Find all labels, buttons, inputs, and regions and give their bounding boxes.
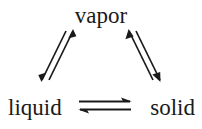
arrow-liquid-to-solid (78, 97, 132, 113)
arrow-vapor-to-solid (125, 29, 160, 82)
arrow-layer (0, 0, 202, 129)
phase-diagram: vapor liquid solid (0, 0, 202, 129)
arrow-liquid-to-vapor (38, 29, 76, 82)
